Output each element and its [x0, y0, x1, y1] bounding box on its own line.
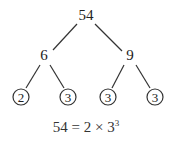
edge-9-3b: [136, 65, 150, 88]
edge-54-6: [53, 24, 77, 50]
edge-54-9: [95, 24, 122, 51]
edge-9-3a: [112, 65, 124, 88]
node-9: 9: [126, 47, 134, 63]
factorization-equation: 54 = 2 × 33: [0, 119, 172, 136]
edge-6-3: [50, 65, 64, 88]
equation-exponent: 3: [115, 118, 120, 128]
equation-base: 54 = 2 × 3: [53, 119, 115, 135]
leaf-3: 3: [152, 90, 159, 105]
leaf-2: 2: [18, 90, 25, 105]
root-node: 54: [79, 7, 95, 23]
node-6: 6: [40, 47, 48, 63]
edge-6-2: [26, 65, 40, 88]
leaf-3: 3: [105, 90, 112, 105]
leaf-3: 3: [65, 90, 72, 105]
